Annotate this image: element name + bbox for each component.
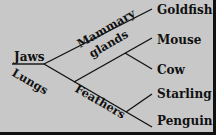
cladogram: Jaws Lungs Mammary glands Feathers Goldf…: [0, 0, 219, 138]
taxon-starling: Starling: [157, 87, 212, 101]
taxon-mouse: Mouse: [157, 33, 202, 47]
taxon-goldfish: Goldfish: [157, 3, 213, 17]
branch-cow: [125, 53, 152, 69]
taxon-penguin: Penguin: [157, 114, 213, 128]
taxon-cow: Cow: [157, 63, 186, 77]
branch-lines: [12, 9, 152, 127]
branch-starling: [126, 94, 152, 112]
trait-feathers: Feathers: [73, 81, 128, 121]
trait-jaws: Jaws: [13, 50, 45, 64]
trait-lungs: Lungs: [10, 65, 51, 97]
